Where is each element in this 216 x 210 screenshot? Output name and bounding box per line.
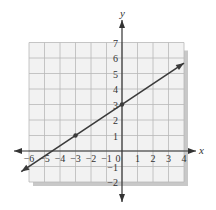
data-point <box>120 102 124 106</box>
y-tick-label: 2 <box>113 115 118 126</box>
y-axis-label: y <box>119 7 125 19</box>
y-tick-label: 1 <box>113 131 118 142</box>
x-axis-arrow-left-icon <box>14 148 22 154</box>
y-axis-arrow-down-icon <box>119 194 125 202</box>
y-tick-label: −1 <box>107 162 118 173</box>
x-tick-label: −6 <box>24 153 35 164</box>
y-axis-arrow-up-icon <box>119 20 125 28</box>
shadow-right <box>184 51 188 187</box>
x-tick-label: 1 <box>135 153 140 164</box>
y-tick-label: 5 <box>113 69 118 80</box>
y-tick-label: 4 <box>113 84 118 95</box>
x-axis-arrow-right-icon <box>188 148 196 154</box>
x-tick-label: −2 <box>86 153 97 164</box>
line-arrow-start-icon <box>21 165 29 172</box>
data-point <box>73 133 77 137</box>
y-tick-label: 6 <box>113 53 118 64</box>
x-tick-label: 4 <box>182 153 187 164</box>
x-tick-label: −3 <box>70 153 81 164</box>
x-tick-label: −4 <box>55 153 66 164</box>
y-tick-label: −2 <box>107 177 118 188</box>
y-tick-label: 7 <box>113 38 118 49</box>
x-axis-label: x <box>198 144 204 156</box>
x-tick-label: 2 <box>151 153 156 164</box>
coordinate-plane: −6−5−4−3−2−101234−2−11234567 x y <box>0 0 216 210</box>
x-tick-label: 3 <box>166 153 171 164</box>
